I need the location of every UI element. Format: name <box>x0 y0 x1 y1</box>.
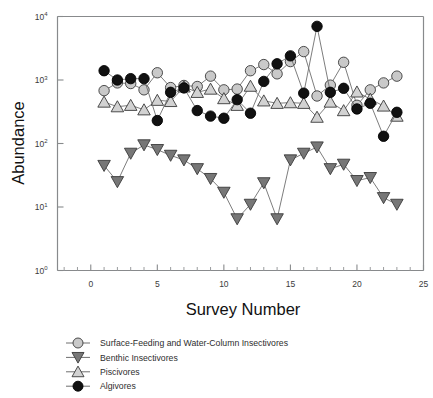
data-point <box>245 108 255 118</box>
x-tick-label: 5 <box>155 279 160 289</box>
data-point <box>271 214 284 225</box>
data-point <box>299 88 309 98</box>
data-point <box>204 83 217 94</box>
x-tick-label: 0 <box>88 279 93 289</box>
data-point <box>205 111 215 121</box>
data-point <box>218 93 231 104</box>
data-point <box>98 160 111 171</box>
y-tick-label: 101 <box>35 202 48 212</box>
data-point <box>284 97 297 108</box>
data-point <box>218 187 231 198</box>
data-point <box>325 87 335 97</box>
data-point <box>205 71 215 81</box>
data-point <box>392 71 402 81</box>
data-point <box>311 142 324 153</box>
data-point <box>284 155 297 166</box>
data-point <box>352 104 362 114</box>
data-point <box>152 68 162 78</box>
data-series-group <box>98 21 403 225</box>
data-point <box>312 21 322 31</box>
data-point <box>232 84 242 94</box>
data-point <box>164 150 177 161</box>
data-point <box>378 78 388 88</box>
y-axis-ticks <box>58 17 64 271</box>
data-point <box>179 83 189 93</box>
data-point <box>244 80 257 91</box>
x-axis-title: Survey Number <box>186 300 301 318</box>
data-point <box>337 105 350 116</box>
data-point <box>378 131 388 141</box>
data-point <box>99 66 109 76</box>
x-tick-label: 15 <box>286 279 296 289</box>
data-point <box>351 176 364 187</box>
legend-item: Algivores <box>66 381 136 391</box>
data-point <box>192 105 202 115</box>
data-point <box>232 94 242 104</box>
data-point <box>151 94 164 105</box>
data-point <box>391 199 404 210</box>
data-point <box>138 140 151 151</box>
data-point <box>139 73 149 83</box>
x-tick-label: 25 <box>419 279 429 289</box>
legend-label: Surface-Feeding and Water-Column Insecti… <box>100 338 289 348</box>
legend-item: Piscivores <box>66 366 140 377</box>
y-axis-title: Abundance <box>9 101 27 185</box>
data-point <box>258 178 271 189</box>
data-point <box>191 164 204 175</box>
data-point <box>259 59 269 69</box>
y-axis-tick-labels: 100101102103104 <box>35 11 48 275</box>
data-point <box>138 104 151 115</box>
data-point <box>338 83 348 93</box>
chart-legend: Surface-Feeding and Water-Column Insecti… <box>66 338 289 391</box>
data-point <box>151 145 164 156</box>
data-point <box>245 66 255 76</box>
legend-item: Surface-Feeding and Water-Column Insecti… <box>66 338 289 348</box>
y-tick-label: 102 <box>35 138 48 148</box>
data-point <box>285 51 295 61</box>
data-point <box>219 113 229 123</box>
data-point <box>111 177 124 188</box>
chart-canvas: 100101102103104 0510152025 Abundance Sur… <box>0 0 433 398</box>
data-point <box>364 173 377 184</box>
data-point <box>231 214 244 225</box>
data-point <box>338 57 348 67</box>
x-axis-ticks <box>91 265 424 271</box>
data-point <box>112 75 122 85</box>
y-tick-label: 100 <box>35 265 48 275</box>
data-point <box>392 107 402 117</box>
data-point <box>124 148 137 159</box>
data-point <box>178 155 191 166</box>
y-tick-label: 103 <box>35 75 48 85</box>
x-tick-label: 10 <box>219 279 229 289</box>
data-point <box>337 159 350 170</box>
data-point <box>272 59 282 69</box>
data-point <box>365 98 375 108</box>
data-point <box>126 73 136 83</box>
data-point <box>299 46 309 56</box>
series-2 <box>98 140 403 225</box>
data-point <box>152 115 162 125</box>
data-point <box>377 193 390 204</box>
data-point <box>124 99 137 110</box>
data-point <box>297 148 310 159</box>
legend-label: Algivores <box>100 381 136 391</box>
data-point <box>259 76 269 86</box>
data-point <box>165 87 175 97</box>
data-point <box>312 91 322 101</box>
y-tick-label: 104 <box>35 11 48 21</box>
legend-label: Benthic Insectivores <box>100 353 178 363</box>
data-point <box>377 100 390 111</box>
legend-label: Piscivores <box>100 367 140 377</box>
legend-marker <box>73 381 83 391</box>
x-tick-label: 20 <box>352 279 362 289</box>
data-point <box>324 164 337 175</box>
data-point <box>98 96 111 107</box>
legend-marker <box>73 338 83 348</box>
x-axis-tick-labels: 0510152025 <box>88 279 428 289</box>
abundance-survey-chart: 100101102103104 0510152025 Abundance Sur… <box>0 0 433 398</box>
legend-item: Benthic Insectivores <box>66 352 178 363</box>
plot-frame <box>58 17 424 271</box>
data-point <box>99 85 109 95</box>
data-point <box>272 69 282 79</box>
